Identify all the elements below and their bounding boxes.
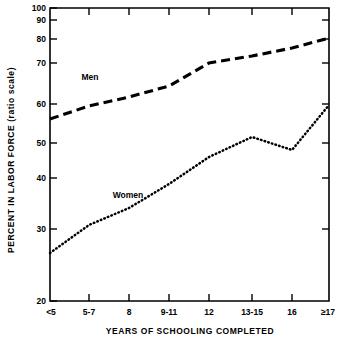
x-tick-label-16: 16: [287, 307, 297, 317]
plot-frame: [50, 8, 329, 301]
x-axis-ticks: [89, 294, 292, 301]
labor-force-line-chart: 100 90 80 70 60 50 40 30 20 <5 5-7 8 9-1…: [0, 0, 344, 345]
series-line-women: [50, 105, 329, 253]
y-tick-label-70: 70: [37, 58, 47, 68]
x-tick-label-9-11: 9-11: [161, 307, 178, 317]
series-label-women: Women: [113, 190, 144, 200]
series-label-men: Men: [82, 72, 99, 82]
x-tick-label-5-7: 5-7: [83, 307, 96, 317]
y-tick-label-60: 60: [37, 99, 47, 109]
y-tick-label-80: 80: [37, 34, 47, 44]
y-tick-label-50: 50: [37, 138, 47, 148]
y-tick-label-100: 100: [32, 3, 46, 13]
x-tick-label-ge17: ≥17: [321, 307, 335, 317]
y-tick-label-40: 40: [37, 173, 47, 183]
chart-page: 100 90 80 70 60 50 40 30 20 <5 5-7 8 9-1…: [0, 0, 344, 345]
y-axis-ticks-right: [322, 20, 329, 229]
x-axis-title: YEARS OF SCHOOLING COMPLETED: [106, 326, 274, 336]
x-tick-label-8: 8: [127, 307, 132, 317]
top-axis-ticks: [89, 8, 292, 15]
y-tick-label-30: 30: [37, 224, 47, 234]
x-axis-tick-labels: <5 5-7 8 9-11 12 13-15 16 ≥17: [46, 307, 335, 317]
y-tick-label-90: 90: [37, 15, 47, 25]
y-axis-ticks: [50, 8, 57, 301]
y-axis-tick-labels: 100 90 80 70 60 50 40 30 20: [32, 3, 46, 306]
x-tick-label-12: 12: [204, 307, 214, 317]
x-tick-label-13-15: 13-15: [241, 307, 263, 317]
x-tick-label-lt5: <5: [46, 307, 56, 317]
y-tick-label-20: 20: [37, 296, 47, 306]
y-axis-title: PERCENT IN LABOR FORCE (ratio scale): [6, 67, 16, 253]
